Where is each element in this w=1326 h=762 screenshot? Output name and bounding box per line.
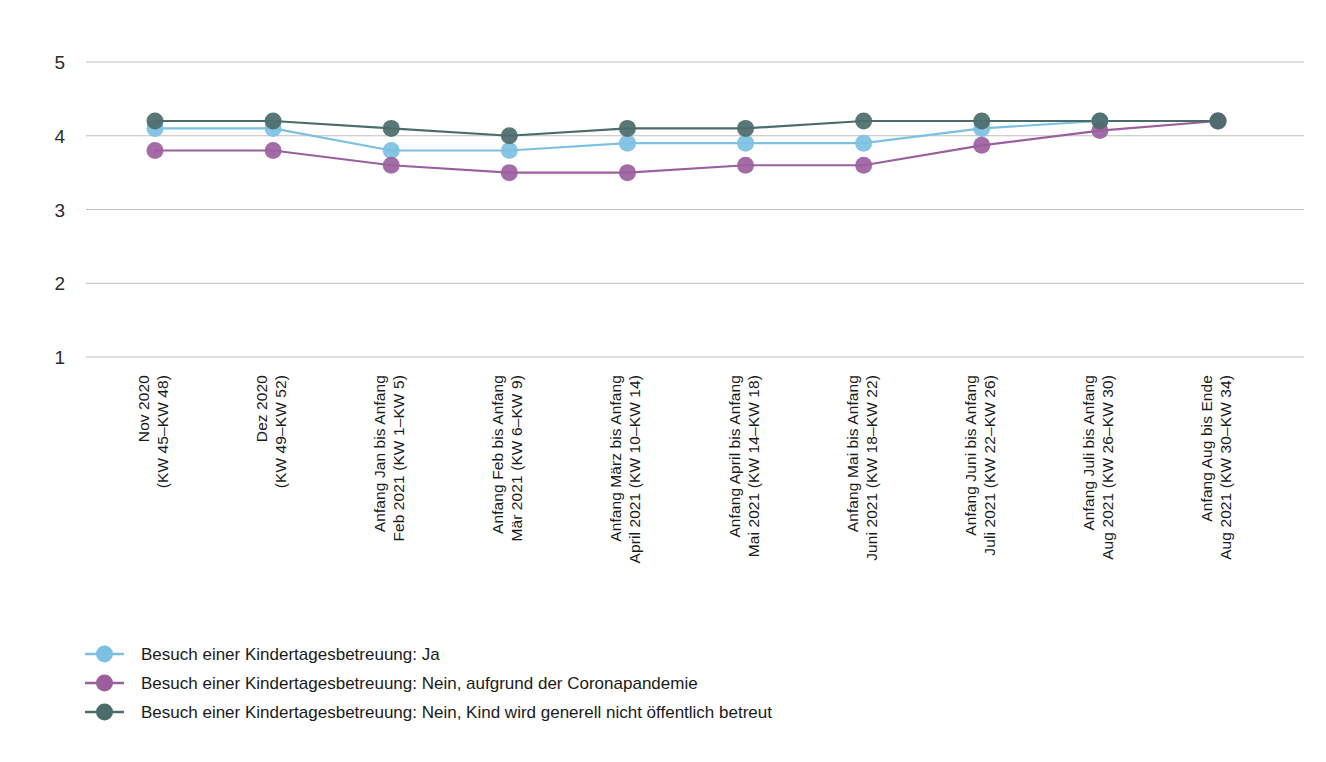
legend-item[interactable]: Besuch einer Kindertagesbetreuung: Ja — [85, 645, 440, 664]
data-point — [973, 137, 990, 154]
x-axis-tick-label: Anfang Jan bis AnfangFeb 2021 (KW 1–KW 5… — [371, 375, 407, 542]
data-series-group — [147, 113, 1227, 182]
legend-marker-icon — [96, 675, 113, 692]
x-axis-tick-label: Anfang März bis AnfangApril 2021 (KW 10–… — [607, 375, 643, 563]
data-point — [619, 164, 636, 181]
legend-item[interactable]: Besuch einer Kindertagesbetreuung: Nein,… — [85, 703, 772, 722]
data-point — [265, 142, 282, 159]
x-axis-tick-labels: Nov 2020(KW 45–KW 48)Dez 2020(KW 49–KW 5… — [135, 375, 1234, 564]
x-axis-tick-label: Anfang Juni bis AnfangJuli 2021 (KW 22–K… — [962, 375, 998, 556]
x-axis-tick-label-line: Anfang Mai bis Anfang — [844, 375, 861, 532]
data-point — [1210, 113, 1227, 130]
x-axis-tick-label-line: Nov 2020 — [135, 375, 152, 442]
data-point — [501, 142, 518, 159]
legend-item-label: Besuch einer Kindertagesbetreuung: Nein,… — [141, 674, 698, 693]
y-axis-tick-label: 4 — [54, 126, 65, 147]
x-axis-tick-label-line: (KW 49–KW 52) — [272, 375, 289, 488]
data-point — [855, 157, 872, 174]
x-axis-tick-label-line: Anfang Juni bis Anfang — [962, 375, 979, 536]
x-axis-tick-label-line: April 2021 (KW 10–KW 14) — [626, 375, 643, 563]
x-axis-tick-label: Anfang Mai bis AnfangJuni 2021 (KW 18–KW… — [844, 375, 880, 561]
gridlines — [86, 62, 1304, 357]
x-axis-tick-label: Anfang Aug bis EndeAug 2021 (KW 30–KW 34… — [1198, 375, 1234, 560]
x-axis-tick-label: Nov 2020(KW 45–KW 48) — [135, 375, 171, 489]
data-point — [973, 113, 990, 130]
x-axis-tick-label-line: Mai 2021 (KW 14–KW 18) — [745, 375, 762, 557]
x-axis-tick-label-line: Anfang Feb bis Anfang — [489, 375, 506, 534]
data-point — [855, 135, 872, 152]
x-axis-tick-label-line: Aug 2021 (KW 26–KW 30) — [1099, 375, 1116, 560]
y-axis-tick-label: 2 — [54, 273, 65, 294]
legend-item-label: Besuch einer Kindertagesbetreuung: Nein,… — [141, 703, 772, 722]
data-point — [737, 157, 754, 174]
data-point — [147, 113, 164, 130]
data-point — [265, 113, 282, 130]
data-point — [501, 164, 518, 181]
data-point — [1091, 113, 1108, 130]
x-axis-tick-label-line: Anfang Aug bis Ende — [1198, 375, 1215, 522]
legend: Besuch einer Kindertagesbetreuung: JaBes… — [85, 645, 772, 722]
data-point — [619, 120, 636, 137]
data-point — [383, 142, 400, 159]
x-axis-tick-label-line: Anfang Juli bis Anfang — [1080, 375, 1097, 531]
x-axis-tick-label-line: (KW 45–KW 48) — [154, 375, 171, 488]
x-axis-tick-label-line: Juli 2021 (KW 22–KW 26) — [981, 375, 998, 556]
x-axis-tick-label: Anfang Feb bis AnfangMär 2021 (KW 6–KW 9… — [489, 375, 525, 542]
x-axis-tick-label-line: Anfang April bis Anfang — [726, 375, 743, 538]
legend-item-label: Besuch einer Kindertagesbetreuung: Ja — [141, 645, 440, 664]
data-point — [737, 120, 754, 137]
data-point — [147, 142, 164, 159]
x-axis-tick-label-line: Aug 2021 (KW 30–KW 34) — [1217, 375, 1234, 560]
y-axis-tick-label: 5 — [54, 52, 65, 73]
y-axis-tick-label: 1 — [54, 347, 65, 368]
x-axis-tick-label-line: Anfang Jan bis Anfang — [371, 375, 388, 532]
y-axis-tick-label: 3 — [54, 200, 65, 221]
data-point — [501, 127, 518, 144]
x-axis-tick-label-line: Juni 2021 (KW 18–KW 22) — [863, 375, 880, 561]
legend-marker-icon — [96, 646, 113, 663]
x-axis-tick-label: Anfang April bis AnfangMai 2021 (KW 14–K… — [726, 375, 762, 557]
data-point — [383, 120, 400, 137]
data-point — [383, 157, 400, 174]
data-point — [619, 135, 636, 152]
x-axis-tick-label-line: Feb 2021 (KW 1–KW 5) — [390, 375, 407, 542]
x-axis-tick-label-line: Anfang März bis Anfang — [607, 375, 624, 542]
x-axis-tick-label-line: Dez 2020 — [253, 375, 270, 442]
x-axis-tick-label-line: Mär 2021 (KW 6–KW 9) — [508, 375, 525, 542]
data-point — [737, 135, 754, 152]
x-axis-tick-label: Dez 2020(KW 49–KW 52) — [253, 375, 289, 489]
legend-marker-icon — [96, 704, 113, 721]
x-axis-tick-label: Anfang Juli bis AnfangAug 2021 (KW 26–KW… — [1080, 375, 1116, 560]
data-point — [855, 113, 872, 130]
chart-canvas: 54321 Nov 2020(KW 45–KW 48)Dez 2020(KW 4… — [0, 0, 1326, 762]
legend-item[interactable]: Besuch einer Kindertagesbetreuung: Nein,… — [85, 674, 698, 693]
y-axis-tick-labels: 54321 — [54, 52, 65, 368]
line-chart: 54321 Nov 2020(KW 45–KW 48)Dez 2020(KW 4… — [0, 0, 1326, 762]
